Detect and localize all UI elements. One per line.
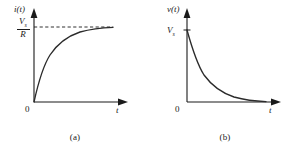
y-axis-arrowhead-b [184,8,191,18]
curve-exponential-decay [187,30,266,102]
asymptote-label-vs-over-r: Vs R [13,17,33,40]
y-tick-label-subscript: s [173,31,175,37]
y-axis-label-a: i(t) [14,5,25,14]
origin-label-b: 0 [175,105,180,114]
plot-b-svg [150,0,300,130]
x-axis-arrowhead-b [271,99,281,106]
asymptote-numerator: Vs [13,17,33,28]
x-axis-arrowhead-a [118,99,128,106]
asymptote-numerator-subscript: s [25,22,27,28]
panel-b: v(t) Vs 0 t (b) [150,0,300,155]
figure-container: i(t) Vs R 0 t (a) v(t) Vs 0 t [0,0,300,155]
panel-a: i(t) Vs R 0 t (a) [0,0,150,155]
x-axis-label-a: t [116,106,119,115]
y-tick-label-vs: Vs [167,26,175,37]
y-axis-label-b: v(t) [167,5,180,14]
asymptote-denominator: R [13,30,33,39]
curve-exponential-rise [34,27,113,102]
origin-label-a: 0 [25,105,30,114]
caption-b: (b) [150,132,300,142]
x-axis-label-b: t [269,106,272,115]
caption-a: (a) [0,132,150,142]
